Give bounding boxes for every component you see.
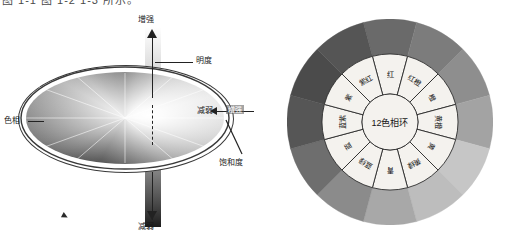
wheel-outer-segment — [363, 19, 416, 56]
value-axis-upper — [152, 36, 153, 98]
saturation-leader-line — [200, 118, 246, 158]
label-brightness: 明度 — [196, 57, 212, 65]
figure-canvas: 图 1-1 图 1-2 1-3 所示。 — [0, 0, 505, 237]
wheel-segment-label: 蓝紫 — [338, 115, 347, 129]
wheel-segment-label: 青 — [387, 166, 394, 175]
wheel-outer-segment — [456, 95, 493, 148]
arrow-up-icon — [147, 29, 157, 38]
label-brightness-increase: 增强 — [138, 16, 154, 24]
wheel-center-circle — [362, 94, 418, 150]
hue-leader-line — [28, 121, 44, 122]
label-brightness-decrease: 减弱 — [138, 223, 154, 231]
label-hue: 色相 — [4, 117, 20, 125]
wheel-segment-label: 红 — [387, 70, 394, 79]
saturation-increase-badge: 增强 — [226, 105, 244, 114]
label-saturation-decrease: 减弱 — [197, 107, 213, 115]
hsb-model-diagram: 增强 增强 减弱 明度 色相 减弱 饱和度 — [0, 10, 252, 237]
value-axis-dashed — [152, 105, 153, 145]
brightness-leader-line — [155, 62, 193, 63]
cut-off-text: 图 1-1 图 1-2 1-3 所示。 — [2, 0, 139, 7]
wheel-outer-segment — [287, 95, 324, 148]
wheel-outer-segment — [363, 188, 416, 225]
hue-rotation-arrow — [61, 212, 69, 220]
label-saturation: 饱和度 — [219, 159, 243, 167]
color-wheel-svg: 红红橙橙黄橙黄黄绿青蓝绿蓝蓝紫紫紫红 — [287, 19, 493, 225]
cut-off-text-strip: 图 1-1 图 1-2 1-3 所示。 — [0, 0, 505, 10]
wheel-segment-label: 黄橙 — [434, 115, 443, 129]
color-wheel-figure: 红红橙橙黄橙黄黄绿青蓝绿蓝蓝紫紫紫红 12色相环 — [287, 19, 493, 225]
arrow-down-icon — [147, 211, 157, 220]
